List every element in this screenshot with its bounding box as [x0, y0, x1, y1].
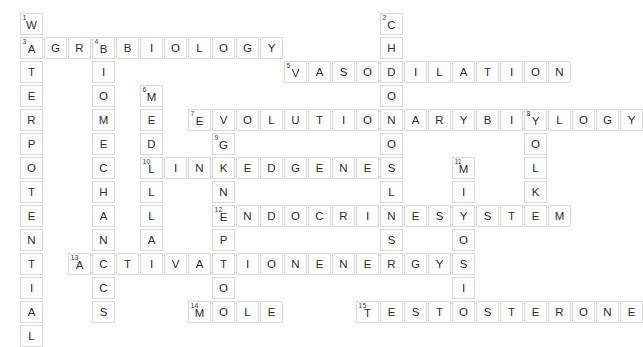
- crossword-cell[interactable]: K: [524, 181, 547, 203]
- crossword-cell[interactable]: H: [92, 181, 115, 203]
- crossword-cell[interactable]: I: [452, 181, 475, 203]
- crossword-cell[interactable]: G: [596, 109, 619, 131]
- crossword-cell[interactable]: O: [284, 205, 307, 227]
- crossword-cell[interactable]: S: [380, 157, 403, 179]
- crossword-cell[interactable]: 6M: [140, 85, 163, 107]
- crossword-cell[interactable]: N: [212, 181, 235, 203]
- crossword-cell[interactable]: E: [260, 301, 283, 323]
- crossword-cell[interactable]: Y: [428, 253, 451, 275]
- crossword-cell[interactable]: O: [452, 229, 475, 251]
- crossword-cell[interactable]: A: [140, 229, 163, 251]
- crossword-cell[interactable]: Y: [260, 37, 283, 59]
- crossword-cell[interactable]: D: [260, 157, 283, 179]
- crossword-cell[interactable]: D: [260, 205, 283, 227]
- crossword-cell[interactable]: E: [524, 205, 547, 227]
- crossword-cell[interactable]: 15T: [356, 301, 379, 323]
- crossword-cell[interactable]: C: [92, 253, 115, 275]
- crossword-cell[interactable]: Y: [452, 205, 475, 227]
- crossword-cell[interactable]: L: [260, 109, 283, 131]
- crossword-cell[interactable]: R: [68, 37, 91, 59]
- crossword-cell[interactable]: I: [356, 205, 379, 227]
- crossword-cell[interactable]: G: [284, 157, 307, 179]
- crossword-cell[interactable]: E: [308, 157, 331, 179]
- crossword-cell[interactable]: 13A: [68, 253, 91, 275]
- crossword-cell[interactable]: R: [548, 301, 571, 323]
- crossword-cell[interactable]: I: [404, 61, 427, 83]
- crossword-cell[interactable]: O: [380, 85, 403, 107]
- crossword-cell[interactable]: 12E: [212, 205, 235, 227]
- crossword-cell[interactable]: O: [92, 85, 115, 107]
- crossword-cell[interactable]: E: [20, 205, 43, 227]
- crossword-cell[interactable]: L: [188, 37, 211, 59]
- crossword-cell[interactable]: N: [548, 61, 571, 83]
- crossword-cell[interactable]: V: [212, 109, 235, 131]
- crossword-cell[interactable]: 11M: [452, 157, 475, 179]
- crossword-cell[interactable]: T: [20, 61, 43, 83]
- crossword-cell[interactable]: I: [164, 157, 187, 179]
- crossword-cell[interactable]: T: [20, 253, 43, 275]
- crossword-cell[interactable]: L: [236, 301, 259, 323]
- crossword-cell[interactable]: L: [140, 205, 163, 227]
- crossword-cell[interactable]: B: [116, 37, 139, 59]
- crossword-cell[interactable]: N: [236, 205, 259, 227]
- crossword-cell[interactable]: E: [404, 205, 427, 227]
- crossword-cell[interactable]: M: [92, 109, 115, 131]
- crossword-cell[interactable]: O: [260, 253, 283, 275]
- crossword-cell[interactable]: T: [20, 181, 43, 203]
- crossword-cell[interactable]: I: [92, 61, 115, 83]
- crossword-cell[interactable]: L: [380, 181, 403, 203]
- crossword-cell[interactable]: T: [500, 301, 523, 323]
- crossword-cell[interactable]: D: [380, 61, 403, 83]
- crossword-cell[interactable]: I: [20, 277, 43, 299]
- crossword-cell[interactable]: I: [452, 277, 475, 299]
- crossword-cell[interactable]: O: [20, 157, 43, 179]
- crossword-cell[interactable]: G: [236, 37, 259, 59]
- crossword-cell[interactable]: 5V: [284, 61, 307, 83]
- crossword-cell[interactable]: N: [596, 301, 619, 323]
- crossword-cell[interactable]: I: [500, 109, 523, 131]
- crossword-cell[interactable]: 3A: [20, 37, 43, 59]
- crossword-cell[interactable]: T: [116, 253, 139, 275]
- crossword-cell[interactable]: O: [524, 133, 547, 155]
- crossword-cell[interactable]: 7E: [188, 109, 211, 131]
- crossword-cell[interactable]: B: [476, 109, 499, 131]
- crossword-cell[interactable]: E: [620, 301, 643, 323]
- crossword-cell[interactable]: R: [332, 205, 355, 227]
- crossword-cell[interactable]: A: [452, 61, 475, 83]
- crossword-cell[interactable]: O: [212, 301, 235, 323]
- crossword-cell[interactable]: E: [20, 85, 43, 107]
- crossword-cell[interactable]: S: [404, 301, 427, 323]
- crossword-cell[interactable]: I: [140, 253, 163, 275]
- crossword-cell[interactable]: O: [572, 301, 595, 323]
- crossword-cell[interactable]: O: [356, 61, 379, 83]
- crossword-cell[interactable]: O: [356, 109, 379, 131]
- crossword-cell[interactable]: L: [524, 157, 547, 179]
- crossword-cell[interactable]: A: [308, 61, 331, 83]
- crossword-cell[interactable]: T: [428, 301, 451, 323]
- crossword-cell[interactable]: I: [500, 61, 523, 83]
- crossword-cell[interactable]: S: [380, 229, 403, 251]
- crossword-cell[interactable]: N: [20, 229, 43, 251]
- crossword-cell[interactable]: 8Y: [524, 109, 547, 131]
- crossword-cell[interactable]: N: [188, 157, 211, 179]
- crossword-cell[interactable]: U: [284, 109, 307, 131]
- crossword-cell[interactable]: L: [20, 325, 43, 347]
- crossword-cell[interactable]: H: [380, 37, 403, 59]
- crossword-cell[interactable]: L: [140, 181, 163, 203]
- crossword-cell[interactable]: C: [92, 157, 115, 179]
- crossword-cell[interactable]: C: [308, 205, 331, 227]
- crossword-cell[interactable]: E: [380, 301, 403, 323]
- crossword-cell[interactable]: N: [380, 205, 403, 227]
- crossword-cell[interactable]: T: [500, 205, 523, 227]
- crossword-cell[interactable]: T: [212, 253, 235, 275]
- crossword-cell[interactable]: I: [332, 109, 355, 131]
- crossword-cell[interactable]: A: [20, 301, 43, 323]
- crossword-cell[interactable]: O: [212, 277, 235, 299]
- crossword-cell[interactable]: R: [20, 109, 43, 131]
- crossword-cell[interactable]: 2C: [380, 13, 403, 35]
- crossword-cell[interactable]: A: [188, 253, 211, 275]
- crossword-cell[interactable]: A: [92, 205, 115, 227]
- crossword-cell[interactable]: E: [524, 301, 547, 323]
- crossword-cell[interactable]: E: [236, 157, 259, 179]
- crossword-cell[interactable]: K: [212, 157, 235, 179]
